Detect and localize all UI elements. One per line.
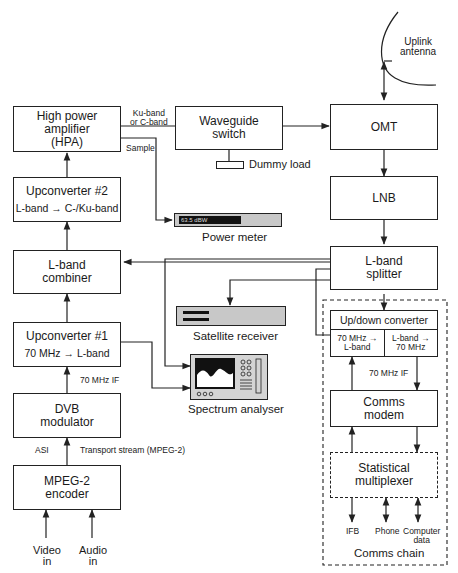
hpa-line2: amplifier [44, 123, 89, 136]
asi-label: ASI [35, 446, 49, 455]
updown-right-l2: 70 MHz [392, 343, 429, 352]
upconverter2-conversion: L-band → C-/Ku-band [16, 202, 119, 215]
modem-line1: Comms [363, 396, 404, 409]
dvb-modulator-block: DVB modulator [13, 393, 121, 438]
dummy-load-icon [216, 161, 244, 169]
upconverter1-title: Upconverter #1 [26, 330, 108, 343]
audio-in-label: Audio in [79, 545, 107, 567]
mpeg2-line2: encoder [45, 488, 88, 501]
computer-data-line2: data [403, 536, 440, 545]
c-band-text: or C-band [130, 118, 168, 127]
phone-label: Phone [375, 527, 400, 536]
power-meter-reading: 63.5 dBW [179, 216, 241, 224]
updown-subcells: 70 MHz →L-band L-band →70 MHz [331, 329, 437, 356]
satellite-receiver-caption: Satellite receiver [193, 330, 278, 342]
antenna-line2: antenna [400, 47, 436, 57]
comms-modem-block: Comms modem [330, 390, 438, 427]
spectrum-display-icon [191, 355, 267, 399]
stat-mux-block: Statistical multiplexer [330, 452, 438, 498]
dvb-line1: DVB [55, 403, 80, 416]
computer-data-label: Computer data [403, 527, 440, 545]
upconverter2-to: C-/Ku-band [65, 202, 119, 214]
mpeg2-encoder-block: MPEG-2 encoder [13, 465, 121, 510]
receiver-slot-icon [183, 311, 209, 314]
uplink-antenna-label: Uplink antenna [400, 37, 436, 57]
hpa-block: High power amplifier (HPA) [13, 106, 121, 152]
if-70-left-label: 70 MHz IF [80, 376, 119, 385]
updown-title: Up/down converter [340, 311, 428, 329]
spectrum-analyser-caption: Spectrum analyser [188, 403, 284, 415]
video-in-line2: in [33, 556, 61, 567]
lnb-label: LNB [372, 192, 395, 205]
upconverter1-to: L-band [77, 347, 110, 359]
updown-right-cell: L-band →70 MHz [384, 330, 438, 356]
power-meter-device: 63.5 dBW [174, 213, 282, 227]
dvb-line2: modulator [40, 416, 93, 429]
upconverter1-from: 70 MHz [24, 347, 60, 359]
if-70-right-label: 70 MHz IF [369, 369, 408, 378]
updown-left-l2: L-band [337, 343, 377, 352]
updown-left-cell: 70 MHz →L-band [331, 330, 384, 356]
video-in-label: Video in [33, 545, 61, 567]
lband-splitter-block: L-band splitter [330, 246, 438, 290]
lband-combiner-line2: combiner [42, 272, 91, 285]
omt-label: OMT [371, 121, 398, 134]
hpa-line1: High power [37, 110, 98, 123]
audio-in-line2: in [79, 556, 107, 567]
upconverter1-conversion: 70 MHz → L-band [24, 347, 109, 360]
ifb-label: IFB [346, 527, 359, 536]
upconverter2-block: Upconverter #2 L-band → C-/Ku-band [13, 177, 121, 222]
mpeg2-line1: MPEG-2 [44, 475, 90, 488]
waveguide-line2: switch [212, 128, 245, 141]
sample-label: Sample [126, 144, 155, 153]
lnb-block: LNB [330, 176, 438, 220]
upconverter2-from: L-band [16, 202, 49, 214]
receiver-slot-icon [183, 318, 209, 321]
lband-combiner-block: L-band combiner [13, 250, 121, 294]
arrow-right-icon: → [51, 202, 62, 214]
comms-chain-caption: Comms chain [354, 547, 424, 559]
arrow-right-icon: → [63, 347, 74, 359]
dummy-load-caption: Dummy load [249, 158, 311, 170]
splitter-line2: splitter [366, 268, 401, 281]
upconverter2-title: Upconverter #2 [26, 185, 108, 198]
satellite-receiver-device [176, 306, 286, 326]
omt-block: OMT [330, 104, 438, 150]
power-meter-caption: Power meter [202, 231, 267, 243]
upconverter1-block: Upconverter #1 70 MHz → L-band [13, 322, 121, 367]
spectrum-analyser-device [190, 354, 268, 400]
waveguide-switch-block: Waveguide switch [175, 106, 283, 150]
hpa-line3: (HPA) [51, 136, 83, 149]
updown-converter-block: Up/down converter 70 MHz →L-band L-band … [330, 310, 438, 357]
transport-stream-label: Transport stream (MPEG-2) [80, 446, 185, 455]
modem-line2: modem [364, 409, 404, 422]
statmux-line2: multiplexer [355, 475, 413, 488]
ku-c-band-label: Ku-band or C-band [130, 109, 168, 127]
